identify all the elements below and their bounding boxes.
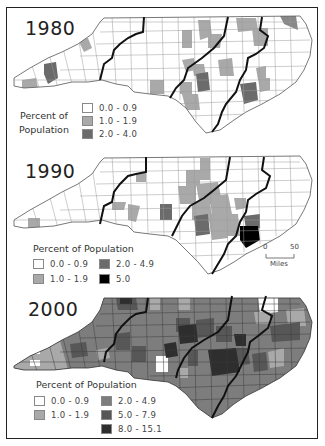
legend-title-line2: Population	[19, 124, 69, 135]
scale-end-label: 50	[290, 243, 299, 251]
legend-label: 8.0 - 15.1	[118, 424, 162, 434]
map-panel-1990: 1990 Percent of Population 0.0 - 0.9 1.0…	[0, 140, 325, 290]
legend-item: 1.0 - 1.9	[82, 116, 137, 126]
legend-item: 2.0 - 4.9	[99, 259, 154, 269]
map-panel-1980: 1980 Percent of Population 0.0 - 0.9 1.0…	[0, 0, 325, 145]
legend-label: 1.0 - 1.9	[51, 410, 89, 420]
map-year-title: 2000	[28, 298, 78, 320]
legend-label: 2.0 - 4.9	[118, 396, 156, 406]
legend-swatch	[82, 103, 93, 113]
legend-title-line1: Percent of	[20, 110, 68, 121]
legend-swatch	[34, 410, 45, 420]
scale-bar	[266, 254, 294, 258]
legend-swatch	[33, 259, 44, 269]
map-year-title: 1980	[25, 17, 75, 39]
legend-label: 1.0 - 1.9	[50, 274, 88, 284]
scale-unit-label: Miles	[270, 260, 288, 268]
legend-label: 1.0 - 1.9	[99, 116, 137, 126]
map-year-title: 1990	[25, 160, 75, 182]
legend-label: 0.0 - 0.9	[50, 259, 88, 269]
map-panel-2000: 2000 Percent of Population 0.0 - 0.9 1.0…	[0, 290, 325, 446]
legend-item: 5.0 - 7.9	[101, 410, 156, 420]
legend-item: 5.0	[99, 274, 130, 284]
legend-item: 0.0 - 0.9	[82, 103, 137, 113]
legend-swatch	[101, 410, 112, 420]
legend-label: 2.0 - 4.0	[99, 129, 137, 139]
legend-title: Percent of Population	[36, 379, 137, 390]
legend-swatch	[101, 424, 112, 434]
legend-swatch	[82, 129, 93, 139]
legend-item: 2.0 - 4.9	[101, 396, 156, 406]
legend-item: 1.0 - 1.9	[34, 410, 89, 420]
legend-label: 2.0 - 4.9	[116, 259, 154, 269]
legend-item: 2.0 - 4.0	[82, 129, 137, 139]
scale-start-label: 0	[263, 243, 267, 251]
legend-item: 8.0 - 15.1	[101, 424, 162, 434]
legend-title: Percent of Population	[33, 243, 134, 254]
legend-item: 0.0 - 0.9	[34, 396, 89, 406]
legend-label: 0.0 - 0.9	[51, 396, 89, 406]
legend-swatch	[99, 259, 110, 269]
legend-label: 5.0 - 7.9	[118, 410, 156, 420]
legend-swatch	[34, 396, 45, 406]
legend-label: 5.0	[116, 274, 130, 284]
legend-item: 1.0 - 1.9	[33, 274, 88, 284]
legend-swatch	[101, 396, 112, 406]
legend-swatch	[33, 274, 44, 284]
legend-swatch	[82, 116, 93, 126]
legend-item: 0.0 - 0.9	[33, 259, 88, 269]
legend-swatch	[99, 274, 110, 284]
legend-label: 0.0 - 0.9	[99, 103, 137, 113]
